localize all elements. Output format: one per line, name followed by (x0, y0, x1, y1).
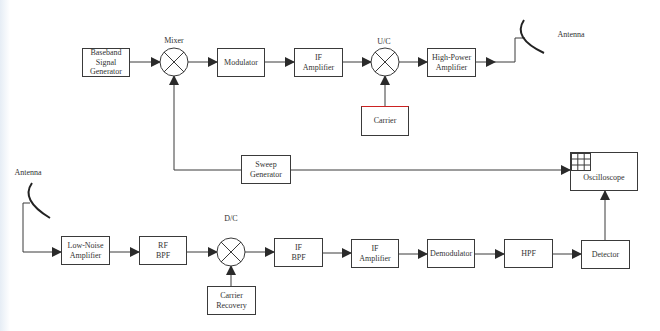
oscilloscope-block: Oscilloscope (570, 152, 638, 191)
oscilloscope-grid-icon (571, 153, 591, 171)
tx-antenna-icon (521, 20, 544, 53)
uc-label: U/C (377, 37, 390, 46)
hpf-block: HPF (504, 239, 553, 268)
rx-antenna-label: Antenna (14, 168, 41, 177)
carrier-block: Carrier (361, 106, 409, 136)
tx-antenna-label: Antenna (557, 30, 584, 39)
dc-label: D/C (224, 214, 237, 223)
arrow-sweep-to-mixer (174, 76, 241, 170)
rx-if-amplifier-block: IF Amplifier (351, 239, 399, 268)
baseband-signal-generator-block: Baseband Signal Generator (82, 48, 130, 77)
detector-block: Detector (581, 240, 630, 269)
sweep-generator-block: Sweep Generator (241, 155, 291, 184)
low-noise-amplifier-block: Low-Noise Amplifier (61, 236, 110, 265)
demodulator-block: Demodulator (427, 239, 475, 268)
tx-if-amplifier-block: IF Amplifier (294, 48, 343, 77)
mixer-label: Mixer (164, 36, 184, 45)
if-bpf-block: IF BPF (274, 238, 323, 267)
rf-bpf-block: RF BPF (139, 236, 187, 265)
arrow-hpa-to-antenna (476, 38, 525, 62)
upconverter-symbol (371, 48, 399, 76)
modulator-block: Modulator (217, 48, 265, 77)
oscilloscope-label: Oscilloscope (583, 173, 624, 183)
carrier-recovery-block: Carrier Recovery (207, 286, 256, 315)
downconverter-symbol (217, 238, 245, 266)
high-power-amplifier-block: High-Power Amplifier (427, 48, 476, 77)
block-diagram: Baseband Signal Generator Mixer Modulato… (0, 0, 660, 331)
rx-antenna-icon (29, 183, 50, 218)
arrow-antenna-to-lna (23, 203, 61, 252)
mixer-symbol (160, 48, 188, 76)
